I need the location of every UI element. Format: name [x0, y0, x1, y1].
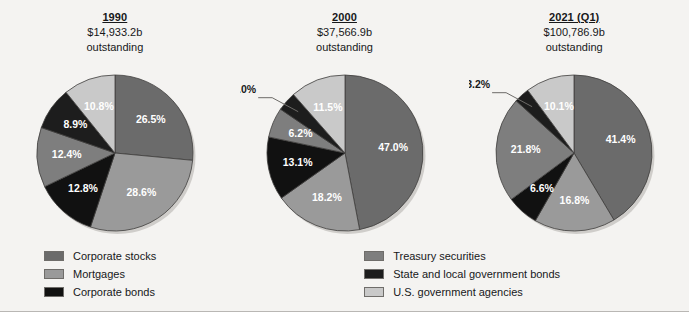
column-header-2000: 2000 $37,566.9b outstanding: [316, 0, 373, 55]
legend-swatch-icon: [364, 251, 384, 261]
pie-2021q1-svg: 41.4%16.8%6.6%21.8%3.2%10.1%: [469, 61, 679, 246]
chart-column-1990: 1990 $14,933.2b outstanding 26.5%28.6%12…: [0, 0, 230, 240]
legend-item-label: State and local government bonds: [393, 268, 560, 280]
legend-item[interactable]: Treasury securities: [364, 248, 560, 263]
pie-2000-svg: 47.0%18.2%13.1%6.2%4.0%11.5%: [240, 61, 450, 246]
column-amount-label: $37,566.9b: [316, 25, 373, 40]
legend-column-left: Corporate stocksMortgagesCorporate bonds: [44, 248, 156, 299]
pie-slice-value-label: 28.6%: [126, 186, 156, 198]
legend-swatch-icon: [364, 269, 384, 279]
column-outstanding-label: outstanding: [86, 40, 143, 55]
legend-item[interactable]: Corporate bonds: [44, 284, 156, 299]
pie-1990: 26.5%28.6%12.8%12.4%8.9%10.8%: [10, 61, 220, 246]
pie-slice-value-label: 8.9%: [63, 118, 88, 130]
legend-swatch-icon: [44, 287, 64, 297]
legend-item-label: Mortgages: [73, 268, 125, 280]
chart-column-2021q1: 2021 (Q1) $100,786.9b outstanding 41.4%1…: [459, 0, 689, 240]
column-amount-label: $100,786.9b: [544, 25, 605, 40]
pie-callout-value-label: 4.0%: [240, 83, 257, 95]
legend-item[interactable]: Mortgages: [44, 266, 156, 281]
column-year-label: 1990: [86, 10, 143, 25]
legend-item[interactable]: State and local government bonds: [364, 266, 560, 281]
pie-slice-value-label: 10.8%: [84, 100, 114, 112]
pie-slice-value-label: 12.8%: [68, 182, 98, 194]
pie-slice-value-label: 13.1%: [282, 156, 312, 168]
pie-slice-value-label: 18.2%: [312, 191, 342, 203]
legend-item-label: Treasury securities: [393, 250, 486, 262]
legend-item[interactable]: U.S. government agencies: [364, 284, 560, 299]
pie-slice-value-label: 41.4%: [606, 133, 636, 145]
pie-slice-value-label: 12.4%: [52, 148, 82, 160]
pie-slice-value-label: 21.8%: [511, 143, 541, 155]
pie-2021q1: 41.4%16.8%6.6%21.8%3.2%10.1%: [469, 61, 679, 246]
column-outstanding-label: outstanding: [544, 40, 605, 55]
legend-swatch-icon: [44, 269, 64, 279]
pie-slice-value-label: 47.0%: [378, 141, 408, 153]
legend-swatch-icon: [44, 251, 64, 261]
pie-slice-value-label: 16.8%: [560, 194, 590, 206]
chart-legend: Corporate stocksMortgagesCorporate bonds…: [0, 248, 689, 299]
legend-item-label: U.S. government agencies: [393, 286, 523, 298]
pie-callout-value-label: 3.2%: [469, 78, 491, 90]
column-header-1990: 1990 $14,933.2b outstanding: [86, 0, 143, 55]
pie-chart-figure: 1990 $14,933.2b outstanding 26.5%28.6%12…: [0, 0, 689, 312]
pie-2000: 47.0%18.2%13.1%6.2%4.0%11.5%: [240, 61, 450, 246]
legend-swatch-icon: [364, 287, 384, 297]
legend-column-right: Treasury securitiesState and local gover…: [364, 248, 560, 299]
column-amount-label: $14,933.2b: [86, 25, 143, 40]
pie-columns: 1990 $14,933.2b outstanding 26.5%28.6%12…: [0, 0, 689, 240]
column-header-2021q1: 2021 (Q1) $100,786.9b outstanding: [544, 0, 605, 55]
column-year-label: 2021 (Q1): [544, 10, 605, 25]
pie-slice-value-label: 10.1%: [544, 100, 574, 112]
column-outstanding-label: outstanding: [316, 40, 373, 55]
legend-item-label: Corporate bonds: [73, 286, 155, 298]
pie-1990-svg: 26.5%28.6%12.8%12.4%8.9%10.8%: [10, 61, 220, 246]
legend-item[interactable]: Corporate stocks: [44, 248, 156, 263]
pie-slice-value-label: 26.5%: [136, 113, 166, 125]
pie-slice-value-label: 11.5%: [313, 101, 343, 113]
column-year-label: 2000: [316, 10, 373, 25]
legend-item-label: Corporate stocks: [73, 250, 156, 262]
chart-column-2000: 2000 $37,566.9b outstanding 47.0%18.2%13…: [230, 0, 460, 240]
pie-slice-value-label: 6.6%: [530, 182, 555, 194]
pie-slice-value-label: 6.2%: [288, 127, 313, 139]
